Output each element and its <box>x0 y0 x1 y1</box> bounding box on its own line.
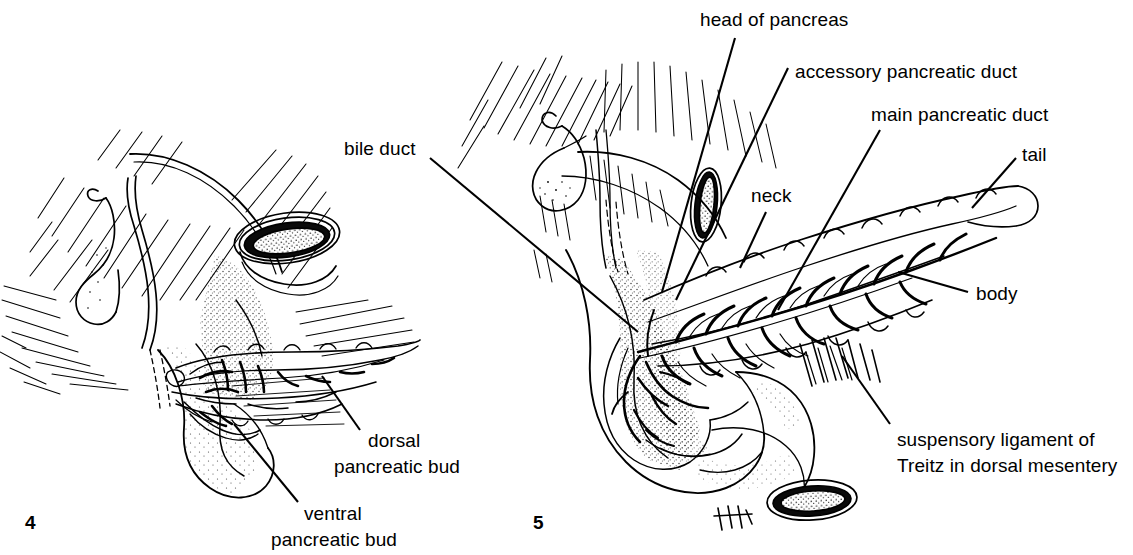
suspensory-ligament-hatching-fine <box>806 346 852 384</box>
bile-duct-right-b <box>606 130 616 268</box>
cystic-duct-hook-left <box>88 189 106 201</box>
duct-tributaries-upper <box>676 234 966 342</box>
label-suspensory-ligament-l1: suspensory ligament of <box>897 428 1095 452</box>
leader-neck <box>740 212 766 268</box>
label-main-pancreatic-duct: main pancreatic duct <box>871 103 1048 127</box>
duodenojejunal-flexure-marks <box>714 506 752 530</box>
label-body: body <box>976 282 1018 306</box>
pancreas-head-outline-right <box>710 402 748 420</box>
cut-duodenum-end-right <box>766 477 859 523</box>
label-bile-duct: bile duct <box>344 137 416 161</box>
duodenum-right-upper-right-wall <box>736 372 764 434</box>
hatching-left-lower <box>0 286 128 394</box>
label-dorsal-pancreatic-bud-l1: dorsal <box>368 429 420 453</box>
figure-number-4: 4 <box>25 512 36 534</box>
gallbladder-left <box>76 198 116 324</box>
figure-number-5: 5 <box>533 512 544 534</box>
bile-duct-left-hidden <box>150 350 160 408</box>
leader-dorsal-bud <box>322 376 360 430</box>
leader-body <box>898 272 968 292</box>
gallbladder-left-neck <box>116 270 119 312</box>
label-dorsal-pancreatic-bud-l2: pancreatic bud <box>334 455 460 479</box>
label-ventral-pancreatic-bud-l1: ventral <box>304 502 362 526</box>
label-suspensory-ligament-l2: Treitz in dorsal mesentery <box>897 454 1117 478</box>
label-tail: tail <box>1022 143 1047 167</box>
panel-4-illustration <box>0 130 420 505</box>
gallbladder-right-stipple <box>539 181 570 201</box>
hepatic-duct-left <box>127 178 149 348</box>
hatching-right-vertical <box>590 62 776 226</box>
pancreas-lobules-upper <box>706 189 996 276</box>
label-head-of-pancreas: head of pancreas <box>700 8 848 32</box>
label-accessory-pancreatic-duct: accessory pancreatic duct <box>795 60 1017 84</box>
leader-tail <box>972 158 1016 208</box>
bile-duct-right <box>596 130 606 268</box>
anatomy-figure: bile duct dorsal pancreatic bud ventral … <box>0 0 1133 555</box>
label-ventral-pancreatic-bud-l2: pancreatic bud <box>271 528 397 552</box>
label-neck: neck <box>751 184 792 208</box>
